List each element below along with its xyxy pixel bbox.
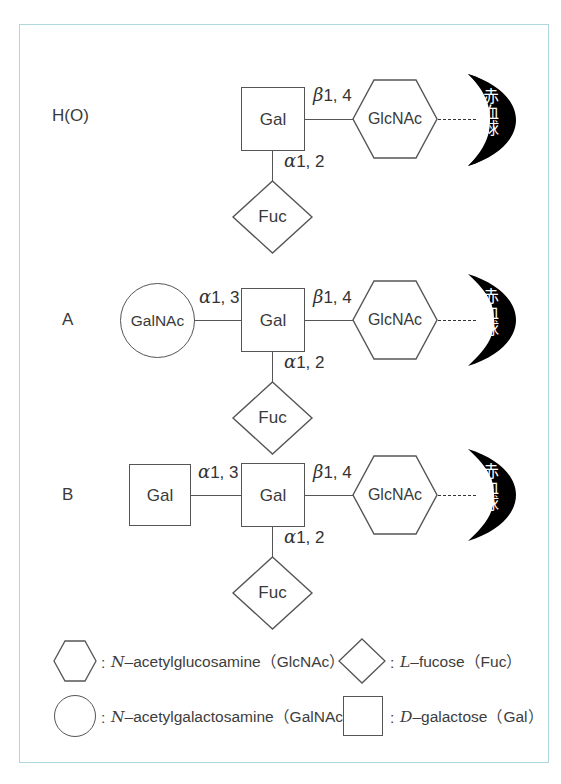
row-label-b: B	[62, 485, 73, 505]
greek-alpha: α	[198, 461, 210, 482]
node-label-glcnac: GlcNAc	[368, 487, 422, 503]
node-label-glcnac: GlcNAc	[368, 111, 422, 127]
node-glcnac-a: GlcNAc	[352, 280, 438, 360]
red-blood-cell-b: 赤血球	[460, 447, 522, 543]
bond-numbers: 1, 3	[210, 463, 238, 482]
row-label-a: A	[62, 310, 73, 330]
bond-line-gal-glcnac-a	[305, 320, 353, 321]
legend-shape-square	[343, 696, 383, 736]
node-label-fuc: Fuc	[258, 584, 286, 601]
bond-numbers: 1, 2	[296, 353, 324, 372]
greek-alpha: α	[284, 526, 296, 547]
legend-text-galnac: –acetylgalactosamine（GalNAc）	[125, 708, 359, 725]
red-blood-cell-ho: 赤血球	[460, 72, 522, 168]
legend-colon-4: :	[390, 709, 394, 727]
bond-label-alpha12-a: α1, 2	[284, 351, 325, 373]
node-label-galnac: GalNAc	[131, 313, 184, 329]
legend-text-gal: –galactose（Gal）	[412, 708, 543, 725]
node-label-gal: Gal	[260, 487, 286, 504]
bond-numbers: 1, 4	[323, 288, 351, 307]
legend-colon-2: :	[390, 654, 394, 672]
node-label-gal: Gal	[260, 111, 286, 128]
bond-label-beta14-b: β1, 4	[313, 461, 352, 483]
bond-label-alpha12-b: α1, 2	[284, 526, 325, 548]
legend-italic-prefix-n: N	[111, 653, 125, 671]
legend-colon-3: :	[101, 709, 105, 727]
rbc-label-b: 赤血球	[480, 463, 497, 511]
node-glcnac-ho: GlcNAc	[352, 79, 438, 159]
bond-label-beta14-a: β1, 4	[313, 286, 352, 308]
node-gal-ho: Gal	[241, 87, 305, 151]
node-gal-b-terminal: Gal	[129, 464, 191, 526]
legend-text-glcnac: –acetylglucosamine（GlcNAc）	[125, 653, 346, 670]
legend-shape-diamond	[338, 638, 386, 684]
bond-numbers: 1, 2	[296, 152, 324, 171]
node-fuc-a: Fuc	[231, 380, 314, 456]
legend-colon-1: :	[101, 654, 105, 672]
greek-beta: β	[313, 84, 323, 105]
diamond-icon	[338, 638, 386, 684]
greek-alpha: α	[199, 286, 211, 307]
bond-numbers: 1, 4	[323, 463, 351, 482]
bond-line-gal-glcnac-ho	[305, 119, 353, 120]
legend-label-glcnac: N–acetylglucosamine（GlcNAc）	[111, 654, 345, 671]
bond-numbers: 1, 4	[323, 86, 351, 105]
hexagon-icon	[53, 640, 97, 682]
node-fuc-b: Fuc	[231, 555, 314, 631]
greek-beta: β	[313, 286, 323, 307]
node-fuc-ho: Fuc	[231, 179, 314, 255]
bond-label-beta14-ho: β1, 4	[313, 84, 352, 106]
greek-alpha: α	[284, 150, 296, 171]
legend-italic-prefix-l: L	[400, 653, 410, 671]
red-blood-cell-a: 赤血球	[460, 272, 522, 368]
node-gal-b: Gal	[241, 463, 305, 527]
node-gal-a: Gal	[241, 288, 305, 352]
bond-label-alpha13-b: α1, 3	[198, 461, 239, 483]
greek-beta: β	[313, 461, 323, 482]
bond-line-gal-glcnac-b	[305, 495, 353, 496]
rbc-label-ho: 赤血球	[480, 88, 497, 136]
rbc-label-a: 赤血球	[480, 288, 497, 336]
bond-label-alpha12-ho: α1, 2	[284, 150, 325, 172]
node-label-fuc: Fuc	[258, 409, 286, 426]
bond-label-alpha13-a: α1, 3	[199, 286, 240, 308]
legend-label-gal: D–galactose（Gal）	[400, 709, 544, 726]
node-label-gal: Gal	[260, 312, 286, 329]
bond-numbers: 1, 2	[296, 528, 324, 547]
node-galnac-a: GalNAc	[120, 283, 195, 358]
bond-line-galnac-gal-a	[194, 320, 242, 321]
bond-numbers: 1, 3	[211, 288, 239, 307]
legend-label-galnac: N–acetylgalactosamine（GalNAc）	[111, 709, 359, 726]
legend-italic-prefix-n: N	[111, 708, 125, 726]
legend-text-fuc: –fucose（Fuc）	[410, 653, 522, 670]
node-glcnac-b: GlcNAc	[352, 455, 438, 535]
node-label-glcnac: GlcNAc	[368, 312, 422, 328]
node-label-fuc: Fuc	[258, 208, 286, 225]
legend-italic-prefix-d: D	[400, 708, 412, 726]
row-label-ho: H(O)	[52, 106, 89, 126]
bond-line-gal-gal-b	[191, 495, 242, 496]
legend-shape-hexagon	[53, 640, 97, 682]
greek-alpha: α	[284, 351, 296, 372]
figure-canvas: H(O) Gal β1, 4 GlcNAc 赤血球 α1, 2 Fuc A	[0, 0, 561, 784]
node-label-gal: Gal	[147, 487, 173, 504]
legend-label-fuc: L–fucose（Fuc）	[400, 654, 522, 671]
legend-shape-circle	[54, 695, 96, 737]
